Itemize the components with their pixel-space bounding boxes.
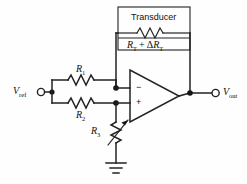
r1-zigzag [68,75,94,85]
vout-label: Vout [223,87,237,100]
transducer-resistance-label: RT+ΔRT [127,40,163,53]
r2-label: R2 [76,110,85,123]
vref-label: Vref [13,86,26,99]
r3-sub: 3 [97,131,100,138]
schematic-svg [0,0,247,184]
r2-zigzag [68,98,94,108]
r2-sub: 2 [82,115,85,122]
r1-label: R1 [76,64,85,77]
circuit-diagram: Transducer RT+ΔRT Vref Vout R1 R2 R3 − + [0,0,247,184]
r3-variable-arrow-head [122,120,129,126]
transducer-label: Transducer [131,13,176,22]
vref-sub: ref [19,91,26,98]
r3-label: R3 [91,126,100,139]
vref-terminal-circle[interactable] [37,88,44,95]
rt-delta-sub: T [159,45,163,52]
opamp-triangle [130,70,179,122]
rt-plus: + [137,39,147,50]
vout-sub: out [229,92,237,99]
transducer-resistor-zigzag [137,28,163,38]
r1-sub: 1 [82,69,85,76]
noninverting-sign: + [136,98,141,107]
inverting-sign: − [136,83,141,92]
vout-terminal-circle[interactable] [212,89,219,96]
output-junction-dot [187,90,193,96]
